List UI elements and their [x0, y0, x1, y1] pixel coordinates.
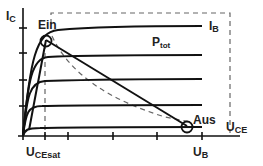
sat-voltage-label: UCEsat	[26, 145, 60, 160]
transistor-characteristic-diagram: IC Ein IB Ptot Aus UCE UCEsat UB	[0, 0, 263, 166]
supply-voltage-label: UB	[193, 145, 209, 160]
off-point-label: Aus	[193, 113, 216, 127]
on-point-label: Ein	[38, 18, 57, 32]
load-line	[29, 40, 187, 130]
base-current-label: IB	[209, 19, 219, 34]
power-label: Ptot	[152, 35, 171, 50]
y-axis-label: IC	[6, 9, 16, 24]
x-axis-label: UCE	[226, 120, 247, 135]
